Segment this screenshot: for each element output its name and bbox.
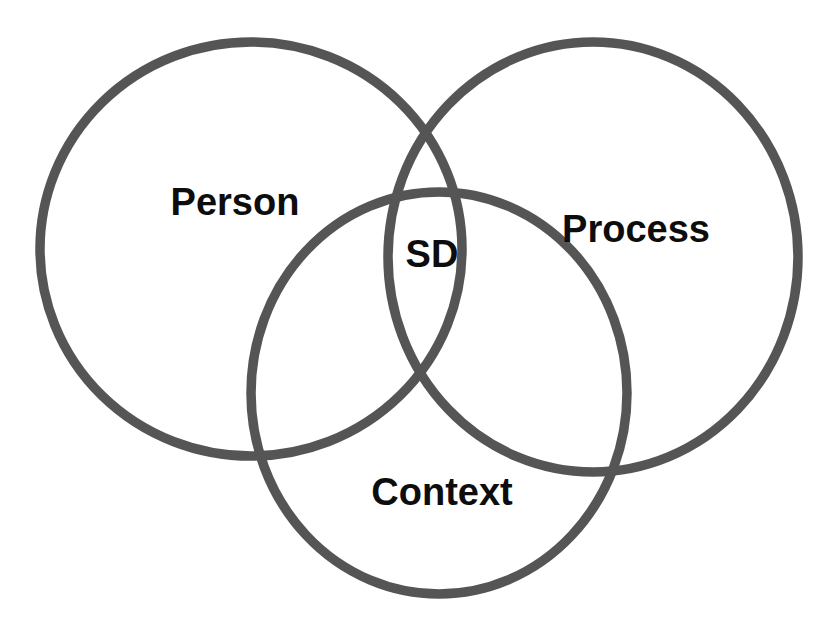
person-label: Person	[171, 181, 300, 223]
sd-intersection-label: SD	[406, 233, 459, 275]
venn-diagram: Person Process Context SD	[0, 0, 828, 629]
process-label: Process	[562, 208, 710, 250]
context-label: Context	[371, 471, 513, 513]
